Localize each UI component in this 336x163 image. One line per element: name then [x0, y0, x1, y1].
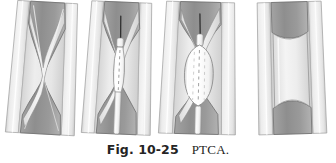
plaque-lower-residual — [273, 100, 312, 134]
figure-number: Fig. 10-25 — [107, 142, 179, 157]
panel-2-balloon-catheter-inserted — [81, 1, 155, 136]
panel-4-artery-after-angioplasty — [255, 1, 327, 135]
panel-3-balloon-inflated — [158, 1, 238, 135]
catheter-tip — [196, 34, 203, 46]
figure-ptca: Fig. 10-25 PTCA. — [0, 0, 336, 163]
catheter-tip — [116, 38, 124, 47]
plaque-upper-residual — [271, 2, 308, 39]
panel-strip — [0, 0, 336, 137]
ptca-illustration — [0, 0, 336, 137]
figure-caption: Fig. 10-25 PTCA. — [0, 136, 336, 163]
catheter-shaft — [194, 106, 201, 134]
guidewire — [199, 14, 200, 35]
panel-1-stenosed-artery — [5, 0, 81, 136]
figure-title: PTCA. — [192, 142, 229, 158]
